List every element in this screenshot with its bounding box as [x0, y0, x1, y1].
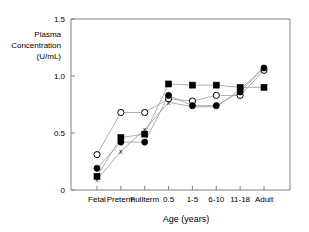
data-point-cross: x: [95, 176, 99, 183]
data-point-cross: x: [238, 86, 242, 93]
data-point-filled-square: [118, 135, 124, 141]
y-axis-title-line-1: Plasma: [34, 30, 61, 39]
data-point-filled-square: [166, 81, 172, 87]
data-point-filled-circle: [142, 139, 148, 145]
x-tick-label-1-5: 1-5: [187, 195, 199, 204]
data-point-cross: x: [191, 103, 195, 110]
data-point-cross: x: [167, 99, 171, 106]
series-lines: [97, 67, 264, 180]
x-tick-label-11-18: 11-18: [230, 195, 250, 204]
x-axis-ticks: FetalPretermFullterm0.51-56-1011-18Adult: [88, 186, 274, 204]
series-markers: xxxxxxxx: [94, 63, 267, 183]
data-point-open-circle: [118, 109, 124, 115]
y-tick-label: 1.5: [54, 15, 66, 24]
data-point-filled-square: [189, 82, 195, 88]
x-axis-title: Age (years): [163, 214, 210, 224]
y-tick-label: 0: [61, 186, 66, 195]
data-point-cross: x: [119, 148, 123, 155]
y-axis-title: Plasma Concentration (U/mL): [11, 30, 61, 61]
data-point-filled-circle: [165, 92, 171, 98]
x-tick-label-0-5: 0.5: [163, 195, 175, 204]
data-point-filled-square: [213, 82, 219, 88]
y-axis-title-line-2: Concentration: [11, 41, 61, 50]
data-point-open-circle: [94, 152, 100, 158]
chart-figure: Plasma Concentration (U/mL) 00.51.01.5 F…: [0, 0, 309, 232]
x-tick-label-fetal: Fetal: [88, 195, 106, 204]
data-point-cross: x: [143, 126, 147, 133]
data-point-open-circle: [142, 109, 148, 115]
y-tick-label: 1.0: [54, 72, 66, 81]
series-line-cross: [97, 67, 264, 180]
data-point-cross: x: [215, 103, 219, 110]
y-tick-label: 0.5: [54, 129, 66, 138]
data-point-filled-circle: [94, 165, 100, 171]
plasma-concentration-line-chart: Plasma Concentration (U/mL) 00.51.01.5 F…: [0, 0, 309, 232]
x-tick-label-6-10: 6-10: [208, 195, 225, 204]
x-tick-label-adult: Adult: [255, 195, 274, 204]
y-axis-title-line-3: (U/mL): [37, 52, 62, 61]
data-point-filled-square: [261, 84, 267, 90]
data-point-cross: x: [262, 63, 266, 70]
data-point-open-circle: [213, 92, 219, 98]
x-tick-label-fullterm: Fullterm: [130, 195, 159, 204]
